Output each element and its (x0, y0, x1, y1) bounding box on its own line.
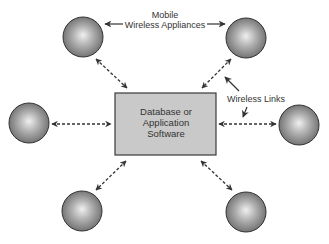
appliance-sphere-bottom-right (226, 192, 266, 232)
appliance-sphere-right (279, 105, 319, 145)
link-bottom-right (201, 161, 232, 190)
wireless-network-diagram: Database or Application Software Mobile … (0, 0, 329, 244)
appliance-sphere-bottom-left (62, 191, 102, 231)
appliances-label-line-1: Mobile (152, 10, 179, 20)
link-bottom-left (96, 161, 126, 190)
link-top-right (202, 59, 231, 88)
appliance-sphere-left (9, 103, 49, 143)
box-label-line-3: Software (147, 128, 185, 139)
appliance-sphere-top-left (63, 17, 103, 57)
appliance-sphere-top-right (226, 18, 266, 58)
links-pointer-down (243, 107, 247, 117)
box-label-line-1: Database or (140, 106, 192, 117)
wireless-links-label: Wireless Links (227, 94, 286, 104)
links-pointer-up (225, 77, 239, 91)
appliances-label-line-2: Wireless Appliances (125, 20, 206, 30)
box-label-line-2: Application (143, 117, 189, 128)
link-top-left (96, 59, 127, 88)
